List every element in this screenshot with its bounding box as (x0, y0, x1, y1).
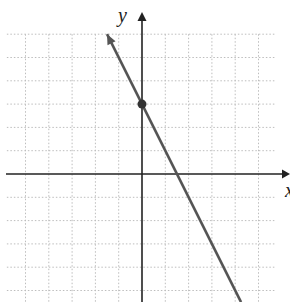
x-axis-label: x (284, 179, 290, 201)
x-axis-arrow-icon (282, 170, 290, 179)
y-axis-arrow-icon (138, 12, 147, 21)
plotted-line (107, 34, 241, 302)
y-axis-label: y (116, 4, 127, 27)
coordinate-plane: y x (0, 0, 290, 302)
function-line (107, 34, 241, 302)
y-intercept-point (138, 100, 147, 109)
